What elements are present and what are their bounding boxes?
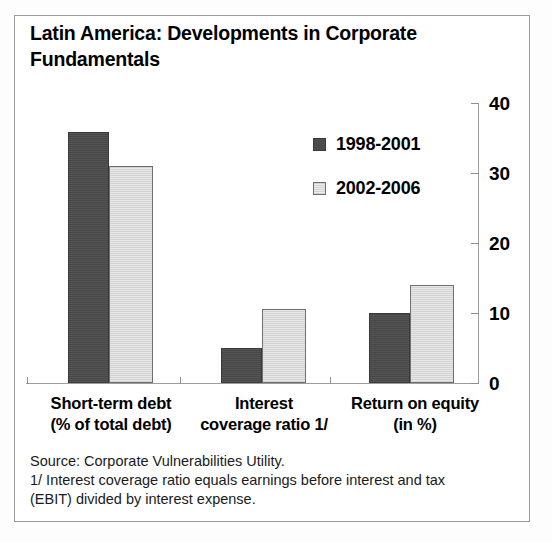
legend-label-2002-2006: 2002-2006 — [336, 179, 420, 197]
chart-figure: Latin America: Developments in Corporate… — [0, 0, 552, 542]
legend-swatch-icon-dark — [313, 138, 326, 151]
category-label-line-1: Short-term debt — [51, 394, 172, 412]
y-axis-label-40: 40 — [489, 94, 510, 113]
legend-item-2002-2006: 2002-2006 — [313, 178, 420, 198]
bar-interest-coverage-1998-2001 — [221, 348, 262, 383]
bar-interest-coverage-2002-2006 — [262, 309, 306, 383]
category-label-line-2: (in %) — [337, 414, 493, 435]
legend-item-1998-2001: 1998-2001 — [313, 134, 420, 154]
legend-swatch-icon-light — [313, 182, 326, 195]
y-axis-label-10: 10 — [489, 304, 510, 323]
x-axis-tick-2 — [330, 377, 331, 384]
x-axis-line — [26, 383, 479, 384]
bar-return-on-equity-2002-2006 — [410, 285, 454, 383]
footnote-source: Source: Corporate Vulnerabilities Utilit… — [30, 452, 500, 471]
x-axis-tick-start — [27, 377, 28, 384]
footnote-definition-line-1: 1/ Interest coverage ratio equals earnin… — [30, 471, 500, 490]
category-label-line-1: Interest — [235, 394, 293, 412]
category-label-line-1: Return on equity — [351, 394, 479, 412]
bar-short-term-debt-1998-2001 — [68, 132, 109, 383]
chart-legend: 1998-2001 2002-2006 — [313, 134, 420, 222]
category-label-line-2: coverage ratio 1/ — [186, 414, 342, 435]
y-axis-tick-30 — [471, 173, 479, 174]
category-label-line-2: (% of total debt) — [26, 414, 196, 435]
legend-label-1998-2001: 1998-2001 — [336, 135, 420, 153]
y-axis-label-30: 30 — [489, 164, 510, 183]
y-axis-tick-20 — [471, 243, 479, 244]
footnote-definition-line-2: (EBIT) divided by interest expense. — [30, 490, 500, 509]
chart-footnotes: Source: Corporate Vulnerabilities Utilit… — [30, 452, 500, 509]
y-axis-tick-40 — [471, 103, 479, 104]
category-label-interest-coverage: Interest coverage ratio 1/ — [186, 393, 342, 435]
y-axis-label-20: 20 — [489, 234, 510, 253]
y-axis-label-0: 0 — [489, 374, 500, 393]
y-axis-tick-0 — [471, 383, 479, 384]
bar-short-term-debt-2002-2006 — [109, 166, 153, 383]
bar-return-on-equity-1998-2001 — [369, 313, 410, 383]
x-axis-tick-1 — [180, 377, 181, 384]
category-label-return-on-equity: Return on equity (in %) — [337, 393, 493, 435]
category-label-short-term-debt: Short-term debt (% of total debt) — [26, 393, 196, 435]
y-axis-tick-10 — [471, 313, 479, 314]
